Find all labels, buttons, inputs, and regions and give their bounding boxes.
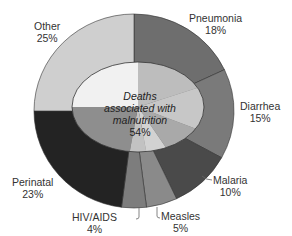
- label-malaria: Malaria 10%: [213, 174, 247, 198]
- center-line3: malnutrition: [95, 114, 185, 126]
- other-name: Other: [34, 20, 60, 32]
- measles-name: Measles: [161, 210, 200, 222]
- label-hiv: HIV/AIDS 4%: [72, 211, 117, 235]
- diarrhea-name: Diarrhea: [240, 100, 280, 112]
- label-other: Other 25%: [34, 20, 60, 44]
- malaria-name: Malaria: [213, 174, 247, 186]
- perinatal-name: Perinatal: [12, 176, 53, 188]
- pneumonia-pct: 18%: [189, 24, 242, 36]
- malaria-pct: 10%: [213, 186, 247, 198]
- label-center: Deaths associated with malnutrition 54%: [95, 90, 185, 138]
- center-pct: 54%: [95, 126, 185, 138]
- other-pct: 25%: [34, 32, 60, 44]
- center-line2: associated with: [95, 102, 185, 114]
- center-line1: Deaths: [95, 90, 185, 102]
- label-measles: Measles 5%: [161, 210, 200, 234]
- measles-pct: 5%: [161, 222, 200, 234]
- diarrhea-pct: 15%: [240, 112, 280, 124]
- label-diarrhea: Diarrhea 15%: [240, 100, 280, 124]
- label-pneumonia: Pneumonia 18%: [189, 12, 242, 36]
- hiv-leader-line: [136, 207, 139, 219]
- hiv-name: HIV/AIDS: [72, 211, 117, 223]
- measles-leader-line: [157, 207, 160, 218]
- label-perinatal: Perinatal 23%: [12, 176, 53, 200]
- hiv-pct: 4%: [72, 223, 117, 235]
- pneumonia-name: Pneumonia: [189, 12, 242, 24]
- perinatal-pct: 23%: [12, 188, 53, 200]
